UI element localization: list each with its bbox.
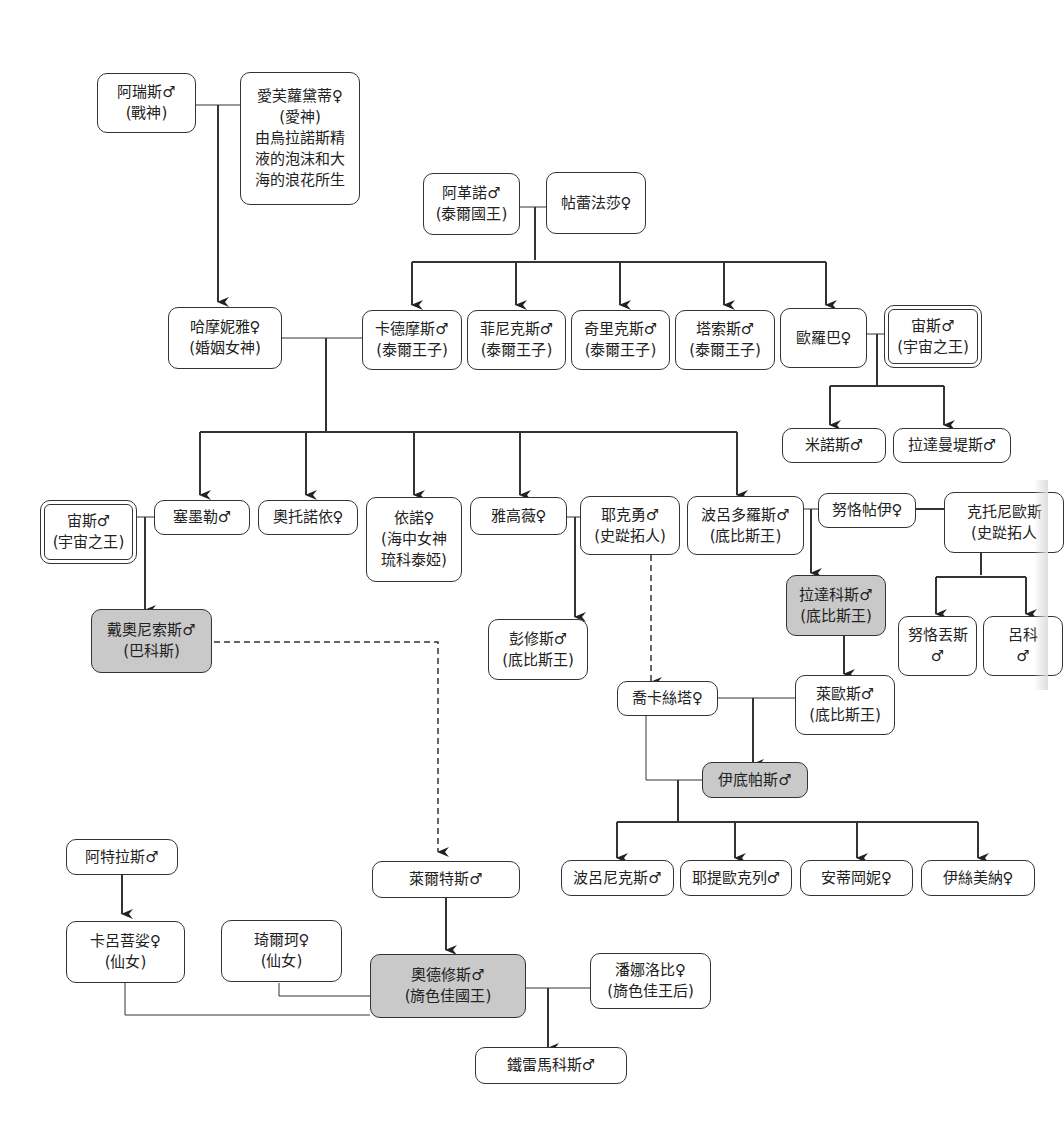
node-polydorus-name: 波呂多羅斯♂ xyxy=(701,505,789,526)
node-oedipus-name: 伊底帕斯♂ xyxy=(718,770,791,791)
node-zeus-name: 宙斯♂ xyxy=(67,511,110,532)
node-penelope-name: 潘娜洛比♀ xyxy=(615,960,686,981)
node-chthonius-title: (史踨拓人 xyxy=(971,523,1037,544)
node-zeus-title: (宇宙之王) xyxy=(897,337,969,358)
node-laius: 萊歐斯♂ (底比斯王) xyxy=(795,675,895,735)
node-calypso-title: (仙女) xyxy=(105,952,147,973)
node-zeus-name: 宙斯♂ xyxy=(911,316,954,337)
node-ismene: 伊絲美納♀ xyxy=(921,860,1035,896)
node-echion: 耶克勇♂ (史踨拓人) xyxy=(580,496,680,555)
node-labdacus: 拉達科斯♂ (底比斯王) xyxy=(786,575,886,636)
node-nycteus-symbol: ♂ xyxy=(931,646,944,667)
node-circe-title: (仙女) xyxy=(261,951,303,972)
node-ares-title: (戰神) xyxy=(126,103,168,124)
node-aphrodite-title: (愛神) xyxy=(279,107,321,128)
node-minos-name: 米諾斯♂ xyxy=(805,435,863,456)
node-odysseus-name: 奧德修斯♂ xyxy=(411,965,484,986)
node-rhadamanthus: 拉達曼堤斯♂ xyxy=(893,428,1011,463)
node-penelope: 潘娜洛比♀ (旖色佳王后) xyxy=(590,953,711,1009)
node-minos: 米諾斯♂ xyxy=(782,428,886,463)
node-cadmus-title: (泰爾王子) xyxy=(376,340,448,361)
node-ino-name: 依諾♀ xyxy=(394,508,435,529)
node-aphrodite-note-3: 海的浪花所生 xyxy=(255,170,345,191)
node-jocasta-name: 喬卡絲塔♀ xyxy=(632,688,703,709)
node-europa: 歐羅巴♀ xyxy=(780,308,867,368)
node-lycus-symbol: ♂ xyxy=(1016,646,1029,667)
node-polynices: 波呂尼克斯♂ xyxy=(561,860,674,896)
node-jocasta: 喬卡絲塔♀ xyxy=(617,681,718,716)
node-eteocles-name: 耶提歐克列♂ xyxy=(692,868,780,889)
node-telephassa: 帖蕾法莎♀ xyxy=(546,172,646,234)
node-thasus-name: 塔索斯♂ xyxy=(696,319,754,340)
node-cadmus-name: 卡德摩斯♂ xyxy=(375,319,448,340)
node-autonoe: 奧托諾依♀ xyxy=(258,500,358,535)
node-atlas: 阿特拉斯♂ xyxy=(66,839,178,875)
node-eteocles: 耶提歐克列♂ xyxy=(680,860,792,896)
node-phoenix: 菲尼克斯♂ (泰爾王子) xyxy=(467,310,566,370)
node-semele: 塞墨勒♂ xyxy=(154,500,250,535)
node-telemachus: 鐵雷馬科斯♂ xyxy=(475,1047,627,1084)
node-antigone-name: 安蒂岡妮♀ xyxy=(821,868,892,889)
node-dionysus-name: 戴奧尼索斯♂ xyxy=(107,620,195,641)
node-agenor-title: (泰爾國王) xyxy=(436,204,508,225)
node-lycus: 呂科 ♂ xyxy=(983,616,1063,676)
node-pentheus: 彭修斯♂ (底比斯王) xyxy=(488,619,588,680)
node-autonoe-name: 奧托諾依♀ xyxy=(273,507,344,528)
node-calypso-name: 卡呂菩娑♀ xyxy=(90,931,161,952)
node-zeus-title: (宇宙之王) xyxy=(53,532,125,553)
node-dionysus-title: (巴科斯) xyxy=(123,641,180,662)
node-circe: 琦爾珂♀ (仙女) xyxy=(221,920,342,982)
node-phoenix-name: 菲尼克斯♂ xyxy=(480,319,553,340)
node-labdacus-name: 拉達科斯♂ xyxy=(799,585,872,606)
node-aphrodite-note-2: 液的泡沫和大 xyxy=(255,149,345,170)
marriage-line-jocasta-oedipus xyxy=(646,716,702,780)
node-harmonia: 哈摩妮雅♀ (婚姻女神) xyxy=(168,307,282,369)
node-laius-name: 萊歐斯♂ xyxy=(816,684,874,705)
node-dionysus: 戴奧尼索斯♂ (巴科斯) xyxy=(91,609,212,673)
node-aphrodite-name: 愛芙蘿黛蒂♀ xyxy=(257,86,343,107)
node-chthonius-name: 克托尼歐斯 xyxy=(967,502,1042,523)
node-cilix: 奇里克斯♂ (泰爾王子) xyxy=(571,310,670,370)
node-atlas-name: 阿特拉斯♂ xyxy=(85,847,158,868)
node-cadmus: 卡德摩斯♂ (泰爾王子) xyxy=(362,310,462,370)
node-oedipus: 伊底帕斯♂ xyxy=(702,762,808,798)
node-europa-name: 歐羅巴♀ xyxy=(796,328,852,349)
node-telephassa-name: 帖蕾法莎♀ xyxy=(561,193,632,214)
node-antigone: 安蒂岡妮♀ xyxy=(800,860,913,896)
node-cilix-title: (泰爾王子) xyxy=(585,340,657,361)
node-semele-name: 塞墨勒♂ xyxy=(173,507,231,528)
node-laertes-name: 萊爾特斯♂ xyxy=(409,869,482,890)
node-nycteis-name: 努恪帖伊♀ xyxy=(832,500,903,521)
node-agenor-name: 阿革諾♂ xyxy=(442,183,500,204)
node-agenor: 阿革諾♂ (泰爾國王) xyxy=(423,173,520,235)
node-pentheus-name: 彭修斯♂ xyxy=(509,629,567,650)
node-nycteus-name: 努恪丟斯 xyxy=(908,625,968,646)
node-nycteis: 努恪帖伊♀ xyxy=(818,493,916,528)
node-phoenix-title: (泰爾王子) xyxy=(481,340,553,361)
node-thasus: 塔索斯♂ (泰爾王子) xyxy=(675,310,775,370)
node-ino-title-1: (海中女神 xyxy=(381,529,447,550)
node-zeus-king-top: 宙斯♂ (宇宙之王) xyxy=(884,305,982,368)
node-laertes: 萊爾特斯♂ xyxy=(372,861,520,898)
node-ares-name: 阿瑞斯♂ xyxy=(117,82,175,103)
descent-bus-chthonius xyxy=(936,553,1026,577)
dashed-lineage-dionysus-laertes xyxy=(214,642,438,852)
node-harmonia-title: (婚姻女神) xyxy=(189,338,261,359)
union-line-calypso-odysseus xyxy=(125,983,370,1015)
node-echion-name: 耶克勇♂ xyxy=(601,505,659,526)
node-echion-title: (史踨拓人) xyxy=(594,526,666,547)
node-harmonia-name: 哈摩妮雅♀ xyxy=(190,317,261,338)
node-cilix-name: 奇里克斯♂ xyxy=(584,319,657,340)
node-polydorus-title: (底比斯王) xyxy=(710,526,782,547)
node-agave-name: 雅高薇♀ xyxy=(491,506,547,527)
page-edge-shadow xyxy=(1034,480,1048,690)
node-telemachus-name: 鐵雷馬科斯♂ xyxy=(507,1055,595,1076)
node-laius-title: (底比斯王) xyxy=(809,705,881,726)
node-penelope-title: (旖色佳王后) xyxy=(607,981,694,1002)
node-zeus-king-left: 宙斯♂ (宇宙之王) xyxy=(40,500,137,564)
node-calypso: 卡呂菩娑♀ (仙女) xyxy=(66,921,185,983)
node-ino-title-2: 琉科泰婭) xyxy=(381,550,447,571)
node-nycteus: 努恪丟斯 ♂ xyxy=(898,616,977,676)
node-thasus-title: (泰爾王子) xyxy=(689,340,761,361)
node-labdacus-title: (底比斯王) xyxy=(800,606,872,627)
